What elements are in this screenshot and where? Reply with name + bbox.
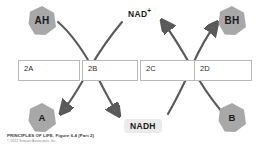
metabolite-node-b: B	[218, 103, 246, 132]
figure-caption: PRINCIPLES OF LIFE, Figure 6.4 (Part 2) …	[7, 133, 94, 143]
metabolite-node-a-label: A	[38, 112, 45, 123]
cofactor-label-nad-plus: NAD+	[128, 9, 151, 19]
figure-canvas: 2A 2B 2C 2D AH BH A B NAD+ NADH PRINCIPL…	[0, 0, 258, 153]
metabolite-node-bh: BH	[218, 6, 246, 35]
reaction-box-2d-label: 2D	[200, 65, 210, 73]
reaction-box-2b-label: 2B	[88, 65, 98, 73]
metabolite-node-a: A	[28, 103, 56, 132]
metabolite-node-ah-label: AH	[35, 15, 50, 26]
cofactor-nad-charge: +	[147, 7, 151, 14]
caption-copyright: © 2012 Sinauer Associates, Inc.	[7, 139, 94, 143]
cofactor-nad-text: NAD	[128, 9, 147, 19]
metabolite-node-ah: AH	[28, 6, 56, 35]
reaction-box-2a: 2A	[18, 60, 80, 81]
metabolite-node-bh-label: BH	[225, 15, 240, 26]
reaction-box-2d: 2D	[194, 60, 252, 81]
reaction-box-2c: 2C	[140, 60, 196, 81]
reaction-box-2a-label: 2A	[24, 65, 34, 73]
reaction-box-2b: 2B	[82, 60, 138, 81]
reaction-box-2c-label: 2C	[146, 65, 156, 73]
metabolite-node-b-label: B	[228, 112, 235, 123]
cofactor-label-nadh: NADH	[124, 119, 162, 133]
caption-title: PRINCIPLES OF LIFE, Figure 6.4 (Part 2)	[7, 133, 94, 139]
